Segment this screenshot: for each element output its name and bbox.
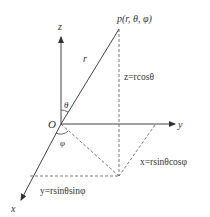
radius-label: r <box>83 53 87 64</box>
point-label: p(r, θ, φ) <box>116 13 153 25</box>
z-axis-label: z <box>57 21 62 32</box>
xy-projection-dashed <box>61 124 119 176</box>
z-equation: z=rcosθ <box>124 72 154 82</box>
y-axis-label: y <box>177 119 183 130</box>
spherical-coordinates-diagram: z y x O p(r, θ, φ) r θ φ z=rcosθ x=rsinθ… <box>0 0 210 217</box>
phi-label: φ <box>60 138 65 148</box>
theta-label: θ <box>64 100 69 110</box>
x-axis-label: x <box>10 203 16 214</box>
phi-arc <box>56 131 68 134</box>
radius-vector <box>61 29 119 124</box>
x-equation: x=rsinθcosφ <box>140 157 188 167</box>
theta-arc <box>61 110 68 112</box>
x-component-dashed <box>119 125 155 176</box>
origin-label: O <box>48 118 56 130</box>
y-equation: y=rsinθsinφ <box>40 186 86 196</box>
